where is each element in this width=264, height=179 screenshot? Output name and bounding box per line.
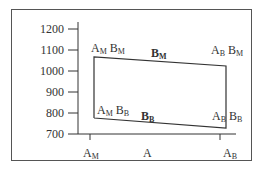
- y-tick-label: 800: [24, 107, 64, 119]
- label-am-bm: AM BM: [91, 42, 125, 58]
- y-tick-label: 700: [24, 128, 64, 140]
- x-tick-label-ab: AB: [223, 147, 237, 163]
- label-ab-bb: AB BB: [212, 110, 242, 126]
- x-axis-title: A: [143, 147, 152, 159]
- y-tick-label: 1100: [24, 44, 64, 56]
- label-ab-bm: AB BM: [211, 44, 243, 60]
- x-tick-label-am: AM: [83, 147, 99, 163]
- y-tick-label: 1000: [24, 65, 64, 77]
- line-label-bb: BB: [141, 110, 154, 126]
- line-label-bm: BM: [151, 47, 167, 63]
- y-axis-ticks: [68, 29, 78, 113]
- label-am-bb: AM BB: [97, 104, 129, 120]
- y-tick-label: 900: [24, 86, 64, 98]
- y-tick-label: 1200: [24, 23, 64, 35]
